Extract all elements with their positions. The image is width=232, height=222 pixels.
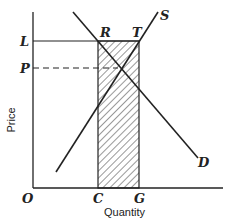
supply-demand-diagram: L P R T S D O C G Quantity Price xyxy=(0,0,232,222)
label-p: P xyxy=(19,61,31,76)
shaded-region xyxy=(98,41,139,188)
label-c: C xyxy=(93,191,104,206)
x-axis-title: Quantity xyxy=(104,206,145,218)
label-t: T xyxy=(132,25,143,40)
label-g: G xyxy=(134,191,145,206)
label-l: L xyxy=(19,34,29,49)
label-r: R xyxy=(99,25,111,40)
label-d: D xyxy=(197,155,210,170)
label-origin: O xyxy=(22,191,34,206)
label-s: S xyxy=(160,8,169,23)
y-axis-title: Price xyxy=(5,107,17,132)
